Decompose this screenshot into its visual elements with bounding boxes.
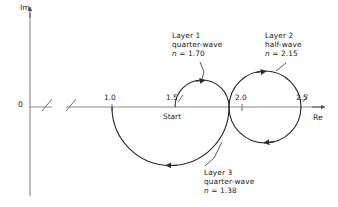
imaginary-axis-label: Im [20,3,30,12]
layer1-arc [175,80,229,107]
origin-label: 0 [18,100,23,109]
layer2-index-value: = 2.15 [272,49,298,58]
layer3-index-symbol: n [204,186,209,195]
layer1-index-symbol: n [172,49,177,58]
real-axis-label: Re [313,113,323,122]
layer2-leader-line [276,63,286,71]
tick-label-2-5: 2.5 [296,93,308,102]
layer2-title: Layer 2 [265,31,302,40]
tick-label-1-5: 1.5 [166,93,178,102]
axis-break-mark-1 [42,99,52,111]
layer3-leader-line [205,142,222,166]
layer1-annotation: Layer 1 quarter-wave n = 1.70 [172,31,222,59]
layer2-index-symbol: n [265,49,270,58]
tick-1-5 [178,95,183,102]
layer2-index: n = 2.15 [265,49,302,58]
layer3-annotation: Layer 3 quarter-wave n = 1.38 [204,168,254,196]
tick-label-2-0: 2.0 [235,93,247,102]
layer1-thickness: quarter-wave [172,40,222,49]
complex-plane-diagram: Im Re 0 1.0 1.5 2.0 2.5 Start Layer 1 qu… [0,0,338,207]
layer2-annotation: Layer 2 half-wave n = 2.15 [265,31,302,59]
layer1-index-value: = 1.70 [179,49,205,58]
layer3-title: Layer 3 [204,168,254,177]
layer1-title: Layer 1 [172,31,222,40]
layer3-index-value: = 1.38 [211,186,237,195]
layer2-thickness: half-wave [265,40,302,49]
layer3-index: n = 1.38 [204,186,254,195]
layer1-leader-line [200,62,204,79]
layer3-thickness: quarter-wave [204,177,254,186]
start-label: Start [163,112,181,121]
axis-break-mark-2 [66,99,76,111]
tick-label-1-0: 1.0 [104,93,116,102]
layer1-index: n = 1.70 [172,49,222,58]
